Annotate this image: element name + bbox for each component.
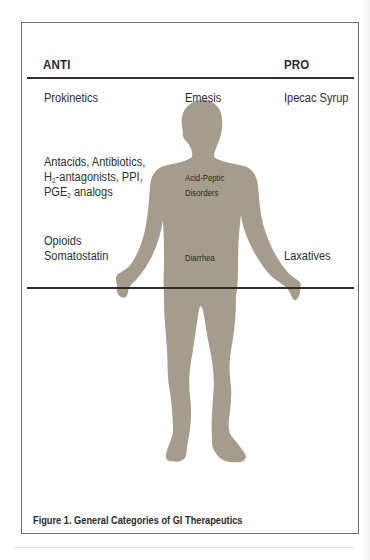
anti-antacids-antibiotics-label: Antacids, Antibiotics, [44,155,145,170]
condition-disorders-label: Disorders [185,185,218,200]
pro-laxatives-label: Laxatives [284,249,331,264]
anti-h2-antagonists-ppi-label: H2-antagonists, PPI, [44,170,143,185]
anti-somatostatin-label: Somatostatin [44,249,108,264]
anti-pge2-analogs-label: PGE2 analogs [44,185,113,200]
anti-prokinetics-label: Prokinetics [44,91,98,106]
anti-opioids-label: Opioids [44,234,81,249]
waist-rule [27,287,354,289]
pro-column-header: PRO [284,58,309,72]
pro-ipecac-syrup-label: Ipecac Syrup [284,91,348,106]
anti-column-header: ANTI [43,58,71,72]
condition-acid-peptic-label: Acid-Peptic [185,170,224,185]
condition-emesis-label: Emesis [185,91,221,106]
header-rule [27,77,354,79]
figure-caption: Figure 1. General Categories of GI Thera… [33,514,243,526]
human-body-silhouette-icon [0,0,370,560]
condition-diarrhea-label: Diarrhea [185,250,215,265]
